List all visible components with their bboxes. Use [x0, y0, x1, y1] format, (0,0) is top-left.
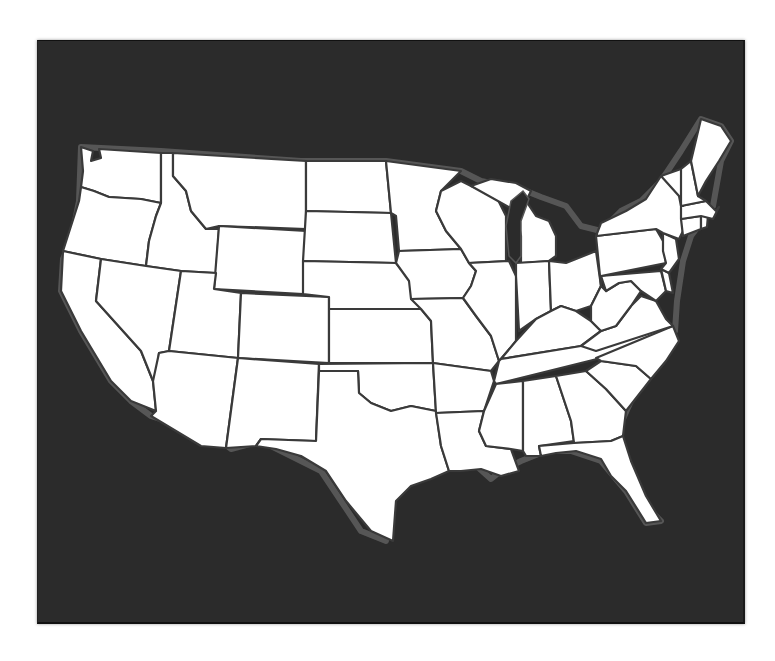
state-new-mexico[interactable]	[226, 358, 319, 448]
state-wyoming[interactable]	[214, 226, 306, 294]
states	[61, 119, 731, 541]
state-north-dakota[interactable]	[306, 161, 391, 213]
state-florida[interactable]	[539, 436, 661, 523]
state-kansas[interactable]	[329, 309, 433, 363]
state-south-dakota[interactable]	[303, 211, 396, 263]
state-colorado[interactable]	[238, 293, 329, 363]
state-arizona[interactable]	[151, 351, 238, 448]
map-board	[37, 40, 745, 624]
us-map	[38, 41, 743, 622]
state-arkansas[interactable]	[433, 363, 494, 413]
